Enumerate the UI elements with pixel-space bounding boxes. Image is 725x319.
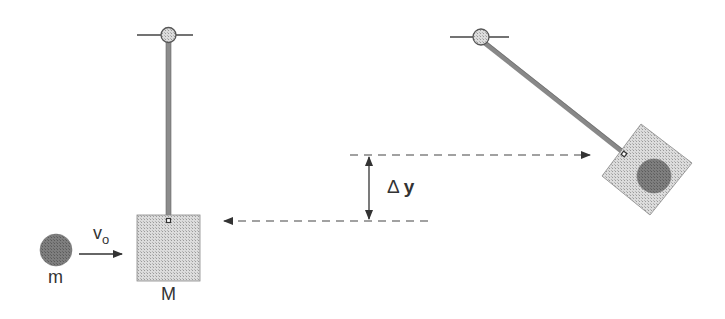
velocity-label: vo (93, 224, 109, 244)
pendulum-at-rest (137, 28, 200, 282)
hinge-icon-left (167, 219, 171, 223)
pivot-icon-left (161, 28, 176, 43)
bullet-m (40, 234, 72, 266)
height-change-label: Δy (387, 176, 414, 198)
embedded-bullet (637, 159, 671, 193)
pendulum-rod-left (166, 38, 171, 216)
delta-symbol: Δ (387, 176, 400, 197)
height-symbol: y (404, 176, 415, 197)
pendulum-swung (450, 29, 692, 215)
pivot-icon-right (473, 29, 489, 45)
ballistic-pendulum-diagram (0, 0, 725, 319)
rod-edge (481, 38, 624, 151)
velocity-subscript: o (102, 232, 109, 247)
pendulum-rod-right (481, 40, 624, 153)
bullet-mass-label: m (48, 267, 63, 288)
block-M (137, 215, 200, 281)
velocity-symbol: v (93, 223, 102, 243)
block-mass-label: M (161, 284, 176, 305)
